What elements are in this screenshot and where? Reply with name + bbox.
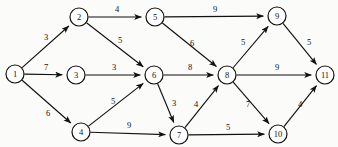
edge-2-to-6 <box>87 23 144 67</box>
node-5[interactable]: 5 <box>146 8 164 26</box>
network-diagram-canvas: 3764535996834559754 1234567891011 <box>0 0 338 147</box>
edge-weight-5-8: 6 <box>190 38 194 48</box>
node-label-1: 1 <box>13 69 17 79</box>
node-6[interactable]: 6 <box>145 66 163 84</box>
edge-weight-5-9: 9 <box>213 4 217 14</box>
node-label-8: 8 <box>225 70 229 80</box>
edge-weight-8-9: 5 <box>241 37 245 47</box>
node-9[interactable]: 9 <box>268 7 286 25</box>
node-10[interactable]: 10 <box>269 125 287 143</box>
node-2[interactable]: 2 <box>70 8 88 26</box>
edge-1-to-3 <box>24 74 62 75</box>
edge-weight-7-8: 4 <box>194 99 199 109</box>
edge-weight-4-6: 5 <box>111 96 115 106</box>
node-4[interactable]: 4 <box>72 123 90 141</box>
edge-weight-2-6: 5 <box>118 35 122 45</box>
node-11[interactable]: 11 <box>316 66 334 84</box>
edge-4-to-7 <box>90 132 165 134</box>
edge-weight-6-7: 3 <box>172 98 176 108</box>
node-label-3: 3 <box>74 70 78 80</box>
node-label-5: 5 <box>153 12 157 22</box>
node-label-11: 11 <box>321 70 329 80</box>
edge-weight-8-10: 7 <box>246 99 250 109</box>
edge-weight-3-6: 3 <box>112 62 116 72</box>
node-1[interactable]: 1 <box>6 65 24 83</box>
edge-weight-7-10: 5 <box>226 122 230 132</box>
edge-weight-4-7: 9 <box>127 120 131 130</box>
network-graph: 3764535996834559754 1234567891011 <box>0 0 338 147</box>
edge-weight-1-4: 6 <box>46 108 50 118</box>
node-label-9: 9 <box>275 11 279 21</box>
edge-9-to-11 <box>283 23 316 64</box>
edge-weight-2-5: 4 <box>115 4 120 14</box>
edge-7-to-10 <box>188 134 264 135</box>
node-label-2: 2 <box>77 12 81 22</box>
edge-weight-9-11: 5 <box>307 37 311 47</box>
edge-8-to-9 <box>233 26 268 67</box>
edge-4-to-6 <box>88 83 143 126</box>
edge-weight-1-2: 3 <box>44 32 48 42</box>
node-7[interactable]: 7 <box>170 126 188 144</box>
edge-5-to-9 <box>164 16 263 17</box>
edge-weight-8-11: 9 <box>275 62 279 72</box>
edge-weight-1-3: 7 <box>44 62 48 72</box>
node-3[interactable]: 3 <box>67 66 85 84</box>
edge-weight-6-8: 8 <box>188 62 192 72</box>
edges-layer <box>22 16 316 135</box>
node-8[interactable]: 8 <box>218 66 236 84</box>
edge-8-to-10 <box>233 82 269 124</box>
edge-7-to-8 <box>185 86 219 128</box>
node-label-6: 6 <box>152 70 156 80</box>
node-label-7: 7 <box>177 130 181 140</box>
node-label-10: 10 <box>274 129 283 139</box>
